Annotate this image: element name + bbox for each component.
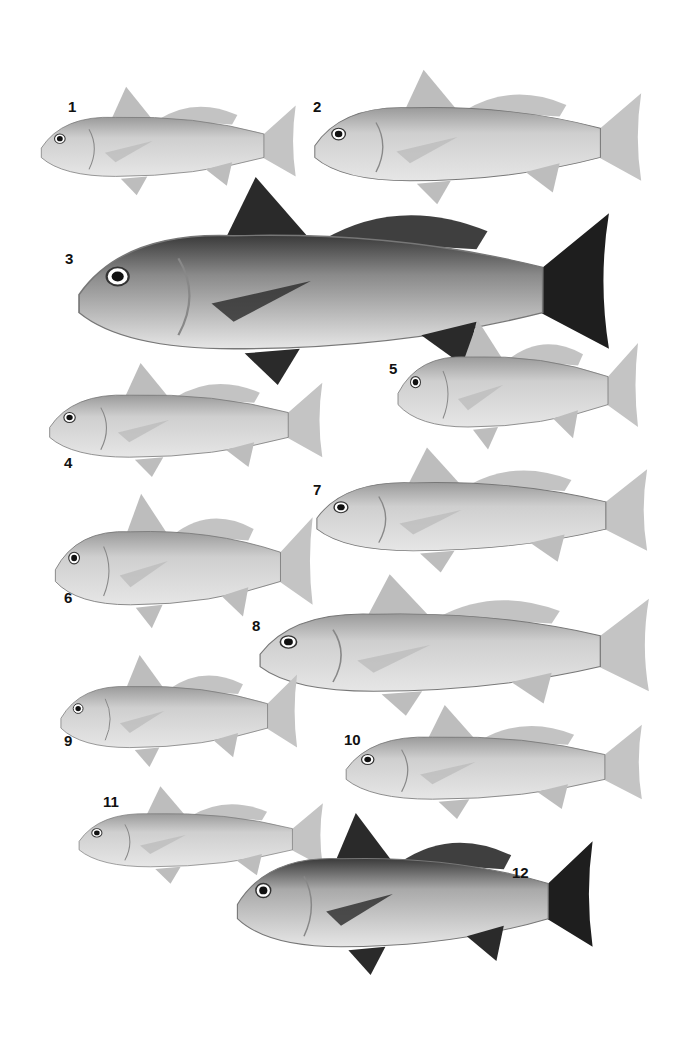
fish-number-label: 8: [252, 617, 260, 634]
fish-illustration-7: [310, 442, 654, 578]
fish-number-label: 4: [64, 454, 72, 471]
fish-illustration-12: [230, 806, 600, 982]
fish-number-label: 6: [64, 589, 72, 606]
fish-illustration-8: [252, 568, 657, 722]
fish-number-label: 7: [313, 481, 321, 498]
fish-illustration-9: [56, 650, 302, 772]
fish-number-label: 1: [68, 98, 76, 115]
fish-number-label: 2: [313, 98, 321, 115]
fish-illustration-5: [393, 315, 643, 455]
fish-illustration-4: [44, 358, 328, 482]
fish-number-label: 11: [103, 793, 119, 810]
fish-number-label: 9: [64, 732, 72, 749]
fish-illustration-plate: 1 2 3: [0, 0, 698, 1037]
fish-number-label: 3: [65, 250, 73, 267]
fish-number-label: 10: [344, 731, 361, 748]
fish-number-label: 12: [512, 864, 529, 881]
fish-number-label: 5: [389, 360, 397, 377]
